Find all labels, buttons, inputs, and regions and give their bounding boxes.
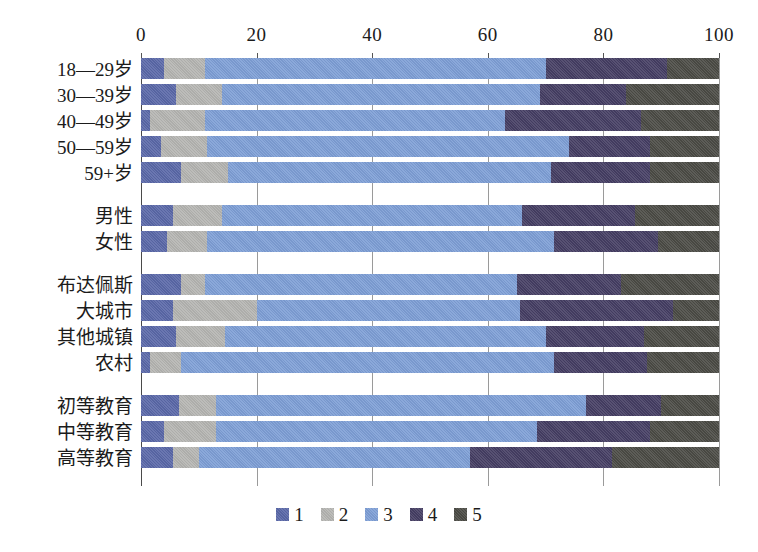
- y-axis-label-11: 农村: [13, 354, 141, 373]
- legend-item-1[interactable]: 1: [276, 505, 304, 524]
- bar-segment-4: [520, 300, 673, 321]
- bar-row: [141, 110, 719, 131]
- y-axis-label-6: 男性: [13, 207, 141, 226]
- gridline-100: [719, 58, 720, 486]
- x-tick-label-100: 100: [704, 24, 734, 46]
- y-axis-label-14: 高等教育: [13, 449, 141, 468]
- bar-row: [141, 421, 719, 442]
- y-axis-label-13: 中等教育: [13, 423, 141, 442]
- x-tick-label-60: 60: [478, 24, 498, 46]
- bar-row: [141, 274, 719, 295]
- bar-segment-2: [181, 274, 204, 295]
- bar-segment-5: [644, 326, 719, 347]
- bar-segment-3: [222, 84, 540, 105]
- bar-segment-3: [205, 58, 546, 79]
- legend-label: 4: [428, 505, 438, 524]
- bar-segment-4: [546, 58, 667, 79]
- bar-segment-3: [207, 136, 568, 157]
- x-tick-label-0: 0: [136, 24, 146, 46]
- bar-segment-5: [612, 447, 719, 468]
- y-axis-label-10: 其他城镇: [13, 328, 141, 347]
- bar-segment-4: [554, 352, 646, 373]
- bar-segment-1: [141, 205, 173, 226]
- bar-segment-5: [673, 300, 719, 321]
- bar-segment-3: [216, 395, 586, 416]
- legend-item-2[interactable]: 2: [321, 505, 349, 524]
- bar-segment-1: [141, 231, 167, 252]
- bar-segment-4: [551, 162, 649, 183]
- bar-segment-5: [661, 395, 719, 416]
- legend-label: 5: [472, 505, 482, 524]
- bar-segment-4: [537, 421, 650, 442]
- bar-segment-4: [470, 447, 612, 468]
- bar-segment-1: [141, 58, 164, 79]
- tickmark-100: [719, 53, 720, 58]
- bar-segment-5: [667, 58, 719, 79]
- bar-segment-5: [621, 274, 719, 295]
- bar-row: [141, 447, 719, 468]
- bar-row: [141, 58, 719, 79]
- bar-segment-1: [141, 84, 176, 105]
- y-axis-label-4: 50—59岁: [13, 138, 141, 157]
- y-axis-label-9: 大城市: [13, 302, 141, 321]
- bar-segment-3: [257, 300, 520, 321]
- bar-segment-2: [167, 231, 207, 252]
- bar-row: [141, 300, 719, 321]
- legend-label: 3: [383, 505, 393, 524]
- legend-item-4[interactable]: 4: [410, 505, 438, 524]
- bar-segment-4: [522, 205, 635, 226]
- bar-segment-2: [176, 84, 222, 105]
- bar-segment-5: [635, 205, 719, 226]
- bar-segment-3: [205, 110, 506, 131]
- bar-segment-3: [207, 231, 554, 252]
- bar-row: [141, 395, 719, 416]
- legend-swatch-icon-2: [321, 508, 334, 521]
- y-axis-label-1: 18—29岁: [13, 60, 141, 79]
- bar-segment-1: [141, 447, 173, 468]
- bar-segment-3: [216, 421, 537, 442]
- bar-row: [141, 326, 719, 347]
- y-axis-label-12: 初等教育: [13, 397, 141, 416]
- bar-segment-4: [586, 395, 661, 416]
- bar-segment-4: [554, 231, 658, 252]
- bar-segment-2: [164, 421, 216, 442]
- bar-segment-2: [173, 447, 199, 468]
- bar-segment-3: [199, 447, 471, 468]
- bar-segment-5: [647, 352, 719, 373]
- bar-segment-4: [546, 326, 644, 347]
- plot-area: [141, 58, 719, 486]
- bar-segment-5: [626, 84, 718, 105]
- bar-row: [141, 205, 719, 226]
- bar-segment-3: [205, 274, 517, 295]
- bar-segment-4: [505, 110, 641, 131]
- bar-segment-2: [173, 300, 257, 321]
- bar-segment-5: [658, 231, 719, 252]
- bar-segment-1: [141, 326, 176, 347]
- y-axis-label-3: 40—49岁: [13, 112, 141, 131]
- bar-row: [141, 231, 719, 252]
- bar-segment-2: [150, 110, 205, 131]
- bar-segment-1: [141, 395, 179, 416]
- bar-segment-2: [173, 205, 222, 226]
- bar-segment-5: [641, 110, 719, 131]
- bar-segment-3: [222, 205, 523, 226]
- y-axis-label-7: 女性: [13, 233, 141, 252]
- x-tick-label-80: 80: [593, 24, 613, 46]
- bar-segment-2: [176, 326, 225, 347]
- bar-segment-3: [228, 162, 552, 183]
- legend-swatch-icon-3: [365, 508, 378, 521]
- bar-row: [141, 352, 719, 373]
- bar-row: [141, 162, 719, 183]
- bar-segment-1: [141, 352, 150, 373]
- y-axis-label-2: 30—39岁: [13, 86, 141, 105]
- legend-swatch-icon-4: [410, 508, 423, 521]
- bar-segment-2: [181, 162, 227, 183]
- x-tick-label-40: 40: [362, 24, 382, 46]
- legend-item-3[interactable]: 3: [365, 505, 393, 524]
- bar-segment-1: [141, 136, 161, 157]
- bar-segment-2: [150, 352, 182, 373]
- bar-segment-1: [141, 274, 181, 295]
- bar-segment-5: [650, 162, 719, 183]
- legend-item-5[interactable]: 5: [454, 505, 482, 524]
- bar-segment-3: [225, 326, 546, 347]
